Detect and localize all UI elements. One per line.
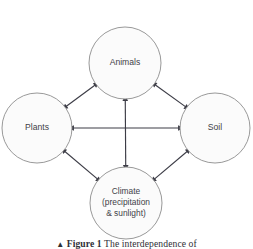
figure-caption: ▲ Figure 1 The interdependence of [0, 238, 253, 249]
node-label-line: Soil [208, 122, 222, 132]
node-label-soil: Soil [208, 122, 222, 132]
node-label-line: Animals [110, 57, 141, 67]
node-label-line: & sunlight) [106, 208, 146, 218]
node-climate[interactable]: Climate(precipitation& sunlight) [90, 167, 162, 239]
edge-arrow-plants-animals [66, 85, 94, 106]
node-soil[interactable]: Soil [180, 93, 250, 163]
edge-arrow-animals-soil [155, 85, 185, 107]
edge-arrow-plants-climate [65, 152, 97, 179]
caption-body: The interdependence of [104, 238, 197, 249]
edge-arrow-climate-soil [155, 152, 187, 179]
node-label-line: Climate [112, 187, 141, 197]
figure-container: AnimalsPlantsSoilClimate(precipitation& … [0, 0, 253, 249]
node-label-line: Plants [25, 122, 49, 132]
node-label-plants: Plants [25, 122, 49, 132]
node-plants[interactable]: Plants [2, 93, 72, 163]
caption-figure-number: Figure 1 [67, 238, 102, 249]
figure-caption-text: ▲ Figure 1 The interdependence of [0, 238, 253, 249]
interdependence-diagram: AnimalsPlantsSoilClimate(precipitation& … [0, 0, 253, 249]
node-label-line: (precipitation [102, 197, 150, 207]
node-animals[interactable]: Animals [89, 27, 161, 99]
caption-triangle-icon: ▲ [56, 240, 64, 249]
node-label-animals: Animals [110, 57, 141, 67]
